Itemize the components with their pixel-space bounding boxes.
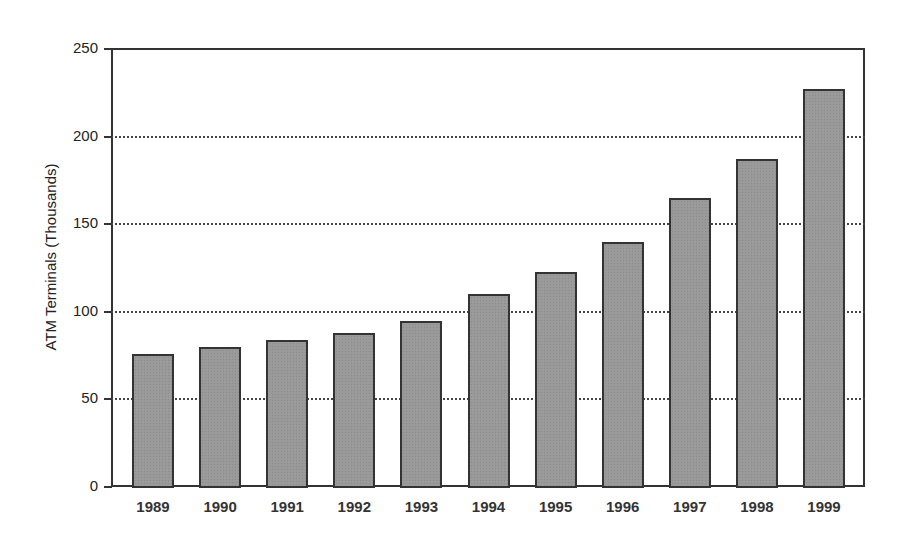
x-tick-label: 1991	[257, 498, 317, 515]
y-axis-title: ATM Terminals (Thousands)	[42, 163, 59, 350]
y-tick-mark	[104, 223, 112, 225]
y-tick-mark	[104, 398, 112, 400]
bar-1992	[333, 333, 375, 488]
bar-1999	[803, 89, 845, 488]
y-tick-label: 0	[40, 478, 98, 494]
y-tick-mark	[104, 48, 112, 50]
bar-1993	[400, 321, 442, 488]
x-tick-label: 1993	[391, 498, 451, 515]
x-tick-label: 1996	[593, 498, 653, 515]
gridline	[111, 136, 865, 138]
x-tick-label: 1994	[459, 498, 519, 515]
y-tick-label: 50	[40, 390, 98, 406]
x-tick-label: 1995	[526, 498, 586, 515]
bar-1991	[266, 340, 308, 488]
bar-1990	[199, 347, 241, 488]
bar-1996	[602, 242, 644, 488]
x-tick-label: 1999	[794, 498, 854, 515]
bar-1998	[736, 159, 778, 488]
x-tick-label: 1990	[190, 498, 250, 515]
bar-1995	[535, 272, 577, 488]
y-tick-label: 200	[40, 128, 98, 144]
y-tick-mark	[104, 486, 112, 488]
bar-1994	[468, 294, 510, 488]
x-tick-label: 1992	[324, 498, 384, 515]
x-tick-label: 1997	[660, 498, 720, 515]
y-tick-mark	[104, 311, 112, 313]
bar-1997	[669, 198, 711, 488]
y-tick-mark	[104, 136, 112, 138]
y-tick-label: 250	[40, 40, 98, 56]
bar-1989	[132, 354, 174, 488]
x-tick-label: 1989	[123, 498, 183, 515]
x-tick-label: 1998	[727, 498, 787, 515]
